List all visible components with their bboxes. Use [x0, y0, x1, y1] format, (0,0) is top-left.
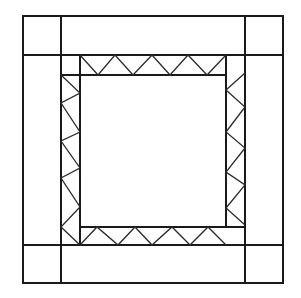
center-square	[80, 75, 226, 227]
quilt-block-diagram	[0, 0, 301, 298]
zigzag-left	[61, 75, 80, 227]
zigzag-top	[80, 55, 226, 75]
zigzag-right	[226, 73, 245, 225]
zigzag-bottom	[61, 227, 226, 245]
